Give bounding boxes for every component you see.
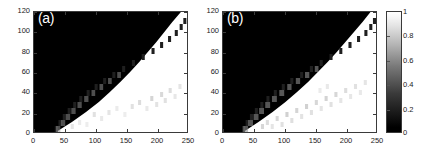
x-tick-label: 200 — [151, 136, 164, 145]
panel-b-x-axis-labels: 0 50 100 150 200 250 — [222, 136, 377, 148]
panel-b: (b) — [222, 11, 377, 133]
x-tick-mark — [316, 129, 317, 132]
y-tick-label: 20 — [22, 109, 30, 117]
x-tick-label: 200 — [340, 136, 353, 145]
y-tick-mark-right — [184, 12, 187, 13]
x-tick-mark — [223, 129, 224, 132]
y-tick-mark — [223, 53, 226, 54]
x-tick-mark — [285, 129, 286, 132]
y-tick-mark-right — [373, 32, 376, 33]
x-tick-mark-top — [96, 12, 97, 15]
panel-a: (a) — [33, 11, 188, 133]
y-tick-mark — [223, 114, 226, 115]
x-tick-mark-top — [34, 12, 35, 15]
x-tick-mark-top — [158, 12, 159, 15]
x-tick-mark-top — [347, 12, 348, 15]
y-tick-mark-right — [373, 114, 376, 115]
y-tick-label: 120 — [206, 7, 219, 15]
x-tick-label: 150 — [120, 136, 133, 145]
panel-b-axes: (b) — [222, 11, 377, 133]
y-tick-mark-right — [373, 93, 376, 94]
y-tick-label: 120 — [17, 7, 30, 15]
colorbar-tick-label: 0.2 — [403, 106, 413, 114]
x-tick-mark — [254, 129, 255, 132]
x-tick-mark — [158, 129, 159, 132]
y-tick-mark-right — [373, 73, 376, 74]
x-tick-mark — [96, 129, 97, 132]
x-tick-mark — [34, 129, 35, 132]
y-tick-mark-right — [184, 114, 187, 115]
y-tick-label: 100 — [17, 27, 30, 35]
y-tick-mark — [223, 32, 226, 33]
y-tick-mark — [34, 114, 37, 115]
x-tick-label: 150 — [309, 136, 322, 145]
colorbar-tick-label: 0.8 — [403, 32, 413, 40]
y-tick-mark — [34, 32, 37, 33]
colorbar-tick-label: 0 — [403, 129, 407, 137]
x-tick-label: 250 — [371, 136, 384, 145]
colorbar-tick-mark — [387, 110, 390, 111]
y-tick-mark-right — [373, 12, 376, 13]
x-tick-label: 250 — [182, 136, 195, 145]
y-tick-mark-right — [184, 73, 187, 74]
panel-a-axes: (a) — [33, 11, 188, 133]
x-tick-mark-top — [127, 12, 128, 15]
x-tick-mark-top — [254, 12, 255, 15]
y-tick-label: 20 — [211, 109, 219, 117]
y-tick-mark — [34, 73, 37, 74]
colorbar-tick-label: 0.4 — [403, 81, 413, 89]
y-tick-label: 80 — [22, 48, 30, 56]
y-tick-mark — [223, 93, 226, 94]
y-tick-label: 40 — [211, 88, 219, 96]
x-tick-mark — [65, 129, 66, 132]
y-tick-label: 80 — [211, 48, 219, 56]
x-tick-mark-top — [316, 12, 317, 15]
colorbar-tick-mark — [387, 61, 390, 62]
y-tick-label: 60 — [211, 68, 219, 76]
y-tick-label: 60 — [22, 68, 30, 76]
x-tick-label: 0 — [220, 136, 224, 145]
colorbar-tick-labels: 1 0.8 0.6 0.4 0.2 0 — [403, 11, 421, 133]
colorbar-tick-mark — [387, 36, 390, 37]
y-tick-mark — [223, 73, 226, 74]
colorbar-tick-mark — [387, 85, 390, 86]
y-tick-mark-right — [373, 53, 376, 54]
x-tick-label: 50 — [60, 136, 68, 145]
panel-a-y-axis-labels: 120 100 80 60 40 20 0 — [0, 11, 30, 133]
y-tick-mark — [34, 53, 37, 54]
panel-b-heatmap — [223, 12, 376, 132]
colorbar-tick-label: 1 — [403, 8, 407, 16]
panel-b-y-axis-labels: 120 100 80 60 40 20 0 — [189, 11, 219, 133]
y-tick-mark-right — [184, 93, 187, 94]
y-tick-mark-right — [184, 53, 187, 54]
y-tick-label: 0 — [215, 129, 219, 137]
x-tick-label: 100 — [89, 136, 102, 145]
y-tick-label: 100 — [206, 27, 219, 35]
x-tick-mark-top — [65, 12, 66, 15]
panel-a-heatmap — [34, 12, 187, 132]
x-tick-label: 50 — [249, 136, 257, 145]
x-tick-mark-top — [285, 12, 286, 15]
colorbar-tick-label: 0.6 — [403, 57, 413, 65]
x-tick-label: 0 — [31, 136, 35, 145]
y-tick-label: 0 — [26, 129, 30, 137]
x-tick-mark-top — [223, 12, 224, 15]
x-tick-mark — [127, 129, 128, 132]
panel-a-x-axis-labels: 0 50 100 150 200 250 — [33, 136, 188, 148]
y-tick-label: 40 — [22, 88, 30, 96]
y-tick-mark — [34, 93, 37, 94]
x-tick-label: 100 — [278, 136, 291, 145]
colorbar — [386, 11, 402, 133]
x-tick-mark — [347, 129, 348, 132]
figure-canvas: 120 100 80 60 40 20 0 — [0, 0, 421, 155]
y-tick-mark-right — [184, 32, 187, 33]
